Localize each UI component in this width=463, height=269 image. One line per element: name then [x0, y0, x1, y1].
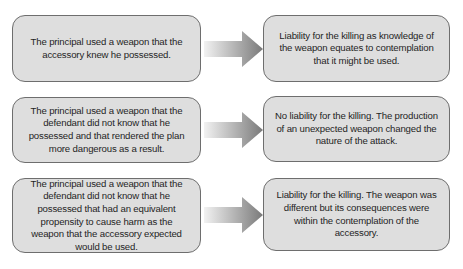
scenario-box-1: The principal used a weapon that the acc… [12, 15, 201, 82]
outcome-box-2: No liability for the killing. The produc… [263, 96, 450, 162]
scenario-text-3: The principal used a weapon that the def… [23, 178, 190, 254]
outcome-box-3: Liability for the killing. The weapon wa… [263, 178, 450, 251]
outcome-text-1: Liability for the killing as knowledge o… [274, 30, 439, 68]
outcome-text-2: No liability for the killing. The produc… [274, 110, 439, 148]
right-arrow-icon [204, 112, 264, 148]
scenario-text-2: The principal used a weapon that the def… [23, 105, 190, 156]
right-arrow-icon [204, 197, 264, 233]
scenario-box-2: The principal used a weapon that the def… [12, 97, 201, 163]
right-arrow-icon [204, 31, 264, 67]
outcome-text-3: Liability for the killing. The weapon wa… [274, 189, 439, 240]
scenario-box-3: The principal used a weapon that the def… [12, 178, 201, 253]
outcome-box-1: Liability for the killing as knowledge o… [263, 15, 450, 82]
scenario-text-1: The principal used a weapon that the acc… [23, 36, 190, 61]
